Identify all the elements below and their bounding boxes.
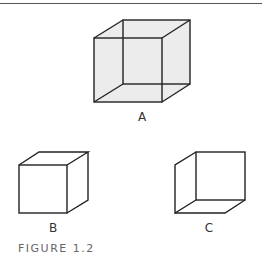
cube-b [19, 152, 88, 213]
figure-caption: FIGURE 1.2 [18, 242, 95, 255]
cube-b-label: B [49, 221, 57, 235]
cube-a-label: A [138, 110, 146, 124]
cube-c [175, 152, 245, 213]
cube-a [94, 20, 190, 102]
cube-c-label: C [205, 221, 213, 235]
